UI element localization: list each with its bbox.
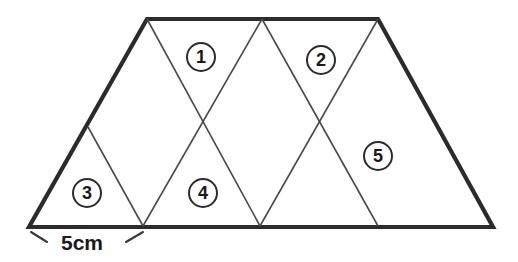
region-label-2: 2 (306, 45, 336, 75)
figure-canvas (0, 0, 518, 262)
region-label-3: 3 (72, 178, 102, 208)
dimension-tick-right (126, 232, 143, 242)
region-label-4: 4 (188, 178, 218, 208)
dimension-label-5cm: 5cm (61, 231, 103, 255)
dimension-tick-left (31, 232, 47, 242)
region-label-1: 1 (186, 42, 216, 72)
geometry-figure: 1 2 3 4 5 5cm (0, 0, 518, 262)
region-label-5: 5 (363, 141, 393, 171)
